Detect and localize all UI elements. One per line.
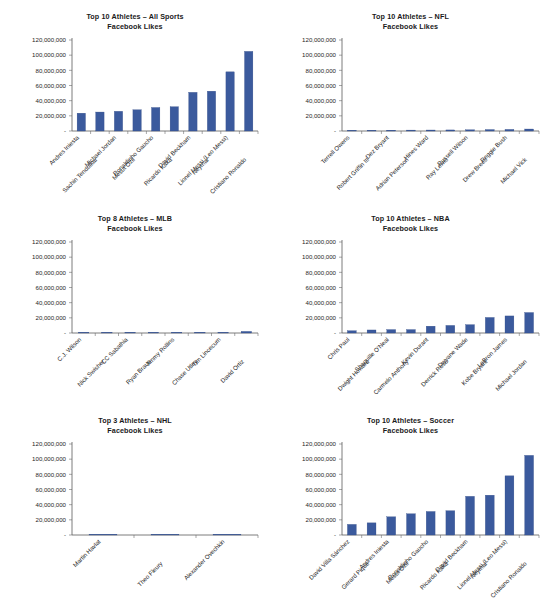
bar [505,129,514,131]
chart-panel-nba: Top 10 Athletes – NBA Facebook Likes -20… [270,202,551,404]
x-axis-category-label: Alexander Ovechkin [182,538,226,582]
y-axis-tick-label: 60,000,000 [36,486,67,493]
bar [446,325,455,333]
bar [466,325,475,333]
bar [347,130,356,131]
y-axis-tick-label: 120,000,000 [32,440,66,447]
x-axis-category-label: Terrell Owens [319,134,350,165]
bar [466,496,475,535]
x-axis-category-label: Dez Bryant [364,134,390,160]
bar [152,107,160,131]
bar [207,91,215,131]
bar [446,511,455,535]
y-axis-tick-label: 20,000,000 [306,314,337,321]
x-axis-category-label: David Beckham [434,538,469,573]
y-axis-tick-label: 40,000,000 [36,97,67,104]
bar [195,332,205,333]
x-axis-category-label: Andres Iniesta [48,133,81,166]
y-axis-tick-label: 100,000,000 [302,253,336,260]
y-axis-tick-label: - [334,329,336,336]
y-axis-tick-label: 60,000,000 [306,486,337,493]
y-axis-tick-label: - [334,127,336,134]
chart-panel-soccer: Top 10 Athletes – Soccer Facebook Likes … [270,404,551,607]
chart-grid: Top 10 Athletes – All Sports Facebook Li… [0,0,551,607]
bar [245,51,253,131]
bar [114,111,122,131]
x-axis-category-label: Ronaldinho Gaucho [386,537,429,580]
y-axis-tick-label: 80,000,000 [306,67,337,74]
bar [387,517,396,535]
y-axis-tick-label: 20,000,000 [36,314,67,321]
x-axis-category-label: LeBron James [475,336,508,369]
bar [387,130,396,131]
x-axis-category-label: Dwyane Wade [436,335,469,368]
x-axis-category-label: C.J. Wilson [56,336,83,363]
bar [505,476,514,535]
bar [525,129,534,131]
x-axis-category-label: Michael Vick [499,155,529,185]
y-axis-tick-label: 120,000,000 [302,238,336,245]
plot-area: -20,000,00040,000,00060,000,00080,000,00… [270,404,551,607]
chart-panel-nfl: Top 10 Athletes – NFL Facebook Likes -20… [270,0,551,202]
y-axis-tick-label: - [64,531,66,538]
y-axis-tick-label: 20,000,000 [36,516,67,523]
x-axis-category-label: David Beckham [156,134,191,169]
bar [170,107,178,131]
y-axis-tick-label: 40,000,000 [306,299,337,306]
chart-panel-nhl: Top 3 Athletes – NHL Facebook Likes -20,… [0,404,270,607]
bar [89,534,117,535]
bar [426,130,435,131]
chart-panel-mlb: Top 8 Athletes – MLB Facebook Likes -20,… [0,202,270,404]
bar [151,534,179,535]
x-axis-category-label: Hines Ward [402,134,429,161]
x-axis-category-label: Shaquille O'Neal [353,336,390,373]
plot-area: -20,000,00040,000,00060,000,00080,000,00… [0,0,270,202]
y-axis-tick-label: 120,000,000 [32,36,66,43]
y-axis-tick-label: 60,000,000 [36,284,67,291]
y-axis-tick-label: 40,000,000 [306,501,337,508]
bar [485,130,494,131]
y-axis-tick-label: 120,000,000 [302,440,336,447]
bar [485,495,494,535]
x-axis-category-label: Andres Iniesta [357,537,390,570]
plot-area: -20,000,00040,000,00060,000,00080,000,00… [0,404,270,607]
bar [148,332,158,333]
y-axis-tick-label: 100,000,000 [32,253,66,260]
bar [347,524,356,535]
x-axis-category-label: Chris Paul [326,336,351,361]
x-axis-category-label: Russell Wilson [436,134,469,167]
bar [446,130,455,131]
y-axis-tick-label: 40,000,000 [36,501,67,508]
x-axis-category-label: Kevin Durant [399,336,429,366]
y-axis-tick-label: 80,000,000 [36,269,67,276]
y-axis-tick-label: 20,000,000 [306,112,337,119]
x-axis-category-label: Tim Lincecum [190,336,222,368]
plot-area: -20,000,00040,000,00060,000,00080,000,00… [0,202,270,404]
y-axis-tick-label: 120,000,000 [302,36,336,43]
y-axis-tick-label: 80,000,000 [36,471,67,478]
x-axis-category-label: Adrian Peterson [374,156,410,192]
y-axis-tick-label: 100,000,000 [302,51,336,58]
bar [347,331,356,333]
bar [466,130,475,131]
bar [213,534,241,535]
bar [218,332,228,333]
bar [426,511,435,535]
y-axis-tick-label: - [64,127,66,134]
x-axis-category-label: David Villa Sánchez [307,538,350,581]
x-axis-category-label: Cristiano Ronaldo [489,559,529,599]
bar [505,316,514,333]
bar [407,514,416,535]
y-axis-tick-label: 80,000,000 [306,471,337,478]
x-axis-category-label: Reggie Bush [479,134,509,164]
plot-area: -20,000,00040,000,00060,000,00080,000,00… [270,202,551,404]
bar [171,332,181,333]
y-axis-tick-label: 60,000,000 [306,82,337,89]
plot-area: -20,000,00040,000,00060,000,00080,000,00… [270,0,551,202]
bar [189,92,197,131]
bar [125,332,135,333]
x-axis-category-label: Theo Fleury [136,559,165,588]
bar [367,330,376,333]
bar [133,110,141,131]
bar [525,313,534,333]
